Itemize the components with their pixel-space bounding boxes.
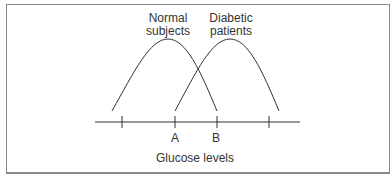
normal-subjects-label: Normal subjects bbox=[140, 12, 196, 38]
label-line: subjects bbox=[140, 25, 196, 38]
marker-b-label: B bbox=[208, 132, 224, 145]
distribution-plot bbox=[0, 0, 392, 176]
diabetic-patients-curve bbox=[175, 39, 279, 111]
axis-title: Glucose levels bbox=[150, 152, 240, 165]
normal-subjects-curve bbox=[112, 39, 217, 111]
marker-a-label: A bbox=[167, 132, 183, 145]
label-line: patients bbox=[203, 25, 259, 38]
diabetic-patients-label: Diabetic patients bbox=[203, 12, 259, 38]
